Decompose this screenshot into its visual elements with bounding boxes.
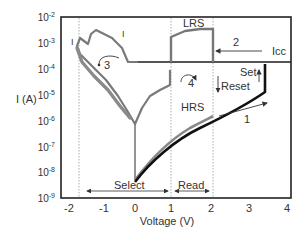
svg-text:10-7: 10-7 xyxy=(38,141,55,153)
label-3: 3 xyxy=(104,59,110,71)
x-axis-ticks: -2 -1 0 1 2 3 4 xyxy=(64,202,290,214)
x-axis-label: Voltage (V) xyxy=(140,215,194,227)
sweep-3-negative xyxy=(77,30,137,124)
label-icc: Icc xyxy=(272,45,287,57)
svg-text:2: 2 xyxy=(208,202,214,214)
svg-text:4: 4 xyxy=(284,202,290,214)
label-4: 4 xyxy=(188,77,194,89)
hrs-grey-curve xyxy=(135,116,213,180)
svg-text:-2: -2 xyxy=(64,202,74,214)
label-hrs: HRS xyxy=(181,101,204,113)
label-reset: Reset xyxy=(221,80,250,92)
svg-text:10-3: 10-3 xyxy=(38,37,55,49)
sweep-2-lrs xyxy=(135,29,291,62)
svg-text:10-6: 10-6 xyxy=(38,115,55,127)
svg-text:10-5: 10-5 xyxy=(38,89,55,101)
svg-text:10-8: 10-8 xyxy=(38,166,55,178)
label-1: 1 xyxy=(244,113,250,125)
label-set: Set xyxy=(240,66,257,78)
iv-chart: LRS 2 Icc 3 4 Set Reset HRS 1 Select Rea… xyxy=(0,0,306,236)
y-axis-label: I (A) xyxy=(16,93,37,105)
y-axis-ticks: 10-2 10-3 10-4 10-5 10-6 10-7 10-8 10-9 xyxy=(38,11,55,204)
tick-mark-left: I xyxy=(71,37,74,47)
svg-text:10-9: 10-9 xyxy=(38,192,55,204)
svg-text:3: 3 xyxy=(246,202,252,214)
label-select: Select xyxy=(114,179,145,191)
svg-text:10-2: 10-2 xyxy=(38,11,55,23)
tick-mark-top: I xyxy=(122,29,125,39)
svg-text:1: 1 xyxy=(168,202,174,214)
label-read: Read xyxy=(178,179,204,191)
label-2: 2 xyxy=(233,36,239,48)
label-lrs: LRS xyxy=(183,17,204,29)
plot-frame xyxy=(61,17,291,198)
svg-text:-1: -1 xyxy=(99,202,109,214)
svg-text:0: 0 xyxy=(132,202,138,214)
svg-text:10-4: 10-4 xyxy=(38,63,55,75)
